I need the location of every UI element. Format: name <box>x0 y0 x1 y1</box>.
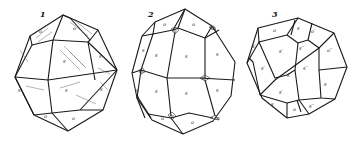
crystal-figure-1: 1 o o s s s s s o o <box>0 0 120 141</box>
crystal-drawing-2: 2 o o m m m m m m s s s s s s <box>115 0 240 141</box>
node-label: m <box>211 25 216 31</box>
node-label: m <box>215 115 220 121</box>
face-label: o <box>44 113 47 119</box>
face-label: s <box>216 87 219 93</box>
face-label: s′ <box>279 48 284 54</box>
face-label: s <box>18 87 21 93</box>
face-label: s <box>65 87 68 93</box>
face-label: s <box>324 81 327 87</box>
figure-number-3: 3 <box>272 9 278 19</box>
node-label: m <box>172 27 177 33</box>
face-label: s <box>155 52 158 58</box>
face-label: s′ <box>279 89 284 95</box>
node-label: m <box>201 75 206 81</box>
face-label: o <box>39 28 42 34</box>
face-label: o <box>293 106 296 112</box>
face-label: s <box>136 87 139 93</box>
face-label: s <box>155 88 158 94</box>
face-label: s <box>271 101 274 107</box>
face-label: o <box>73 25 76 31</box>
crystal-outline-1 <box>15 15 117 131</box>
face-label: s <box>185 90 188 96</box>
crystal-drawing-1: 1 o o s s s s s o o <box>0 0 120 141</box>
face-label: s′′ <box>299 45 305 51</box>
face-label: o <box>161 115 164 121</box>
face-label: s′′ <box>309 103 315 109</box>
face-label: o <box>192 21 195 27</box>
face-label: s <box>216 51 219 57</box>
node-label: m <box>169 113 174 119</box>
face-label: s′′ <box>303 65 309 71</box>
crystal-figure-2: 2 o o m m m m m m s s s s s s <box>115 0 240 141</box>
node-label: m <box>139 68 144 74</box>
face-label: s <box>99 53 102 59</box>
face-label: s <box>100 86 103 92</box>
face-label: s <box>142 47 145 53</box>
face-label: s′ <box>261 65 266 71</box>
face-label: o <box>163 21 166 27</box>
face-label: o′ <box>311 28 316 34</box>
crystal-drawing-3: 3 o s o′ s′ s′′ o′′ s′ s′ s′′ s s′ s o s… <box>235 0 355 141</box>
face-label: s <box>297 25 300 31</box>
face-label: o <box>273 27 276 33</box>
face-label: o <box>72 115 75 121</box>
crystal-figure-3: 3 o s o′ s′ s′′ o′′ s′ s′ s′′ s s′ s o s… <box>235 0 355 141</box>
face-label: o <box>191 119 194 125</box>
face-label: s <box>185 53 188 59</box>
face-label: o′′ <box>327 47 333 53</box>
face-label: s <box>63 58 66 64</box>
figure-number-1: 1 <box>40 9 46 19</box>
figure-number-2: 2 <box>147 9 154 19</box>
